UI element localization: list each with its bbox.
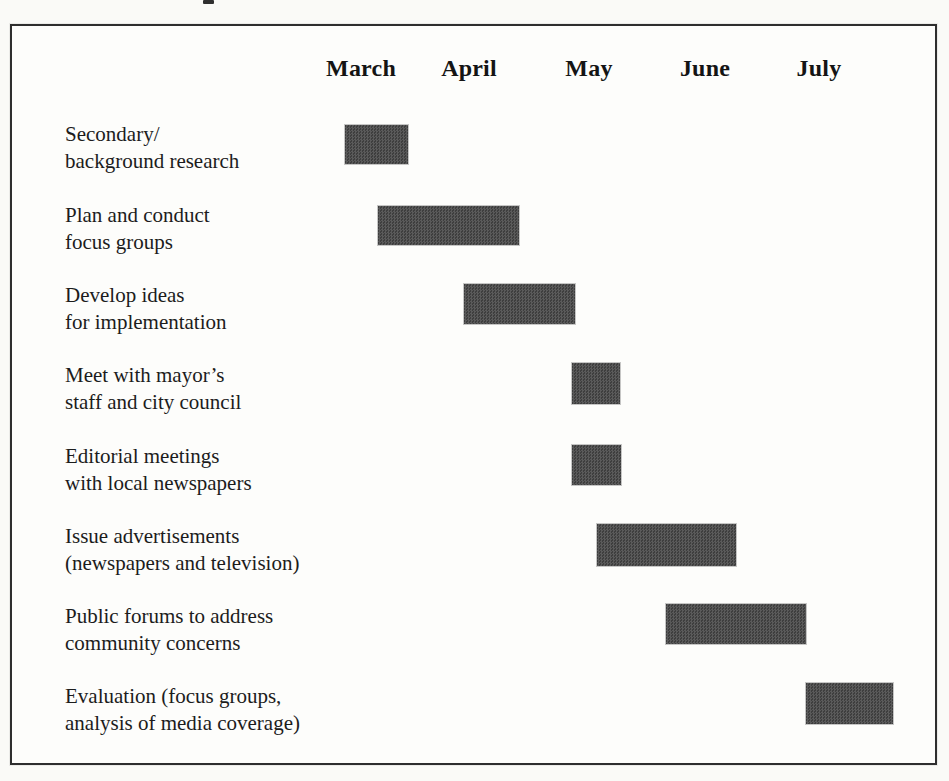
task-label-line: for implementation bbox=[65, 309, 227, 336]
task-label-line: staff and city council bbox=[65, 389, 241, 416]
task-label-line: Public forums to address bbox=[65, 603, 273, 630]
task-label-line: background research bbox=[65, 148, 239, 175]
gantt-bar-editorial-meetings-local-newspapers bbox=[572, 445, 621, 485]
scan-artifact bbox=[203, 0, 214, 4]
gantt-bar-develop-ideas-implementation bbox=[464, 284, 575, 324]
gantt-chart-frame: MarchAprilMayJuneJuly Secondary/backgrou… bbox=[10, 24, 937, 765]
task-label-line: Meet with mayor’s bbox=[65, 362, 241, 389]
task-label-editorial-meetings-local-newspapers: Editorial meetingswith local newspapers bbox=[65, 443, 252, 497]
task-label-line: with local newspapers bbox=[65, 470, 252, 497]
task-label-line: Issue advertisements bbox=[65, 523, 299, 550]
gantt-bar-secondary-background-research bbox=[345, 125, 408, 164]
month-label-july: July bbox=[749, 53, 889, 83]
task-label-line: Plan and conduct bbox=[65, 202, 210, 229]
gantt-bar-plan-conduct-focus-groups bbox=[378, 206, 519, 245]
task-label-line: focus groups bbox=[65, 229, 210, 256]
gantt-bar-public-forums-community-concerns bbox=[666, 604, 806, 644]
task-label-line: analysis of media coverage) bbox=[65, 710, 300, 737]
task-label-line: community concerns bbox=[65, 630, 273, 657]
month-label-april: April bbox=[399, 53, 539, 83]
task-label-secondary-background-research: Secondary/background research bbox=[65, 121, 239, 175]
task-label-evaluation-focus-groups-media: Evaluation (focus groups,analysis of med… bbox=[65, 683, 300, 737]
task-label-line: Evaluation (focus groups, bbox=[65, 683, 300, 710]
task-label-issue-advertisements: Issue advertisements(newspapers and tele… bbox=[65, 523, 299, 577]
task-label-plan-conduct-focus-groups: Plan and conductfocus groups bbox=[65, 202, 210, 256]
gantt-bar-issue-advertisements bbox=[597, 524, 736, 566]
task-label-meet-mayors-staff-city-council: Meet with mayor’sstaff and city council bbox=[65, 362, 241, 416]
task-label-line: (newspapers and television) bbox=[65, 550, 299, 577]
gantt-bar-meet-mayors-staff-city-council bbox=[572, 363, 620, 404]
task-label-line: Secondary/ bbox=[65, 121, 239, 148]
task-label-develop-ideas-implementation: Develop ideasfor implementation bbox=[65, 282, 227, 336]
task-label-line: Editorial meetings bbox=[65, 443, 252, 470]
task-label-line: Develop ideas bbox=[65, 282, 227, 309]
gantt-bar-evaluation-focus-groups-media bbox=[806, 683, 893, 724]
task-label-public-forums-community-concerns: Public forums to addresscommunity concer… bbox=[65, 603, 273, 657]
